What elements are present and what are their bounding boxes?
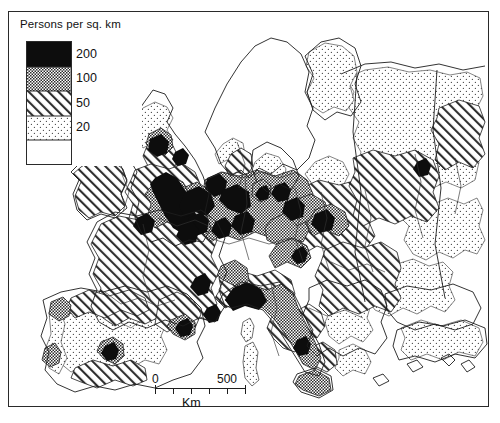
scale-tick-2 bbox=[191, 388, 192, 394]
legend-swatch-under-20 bbox=[27, 140, 71, 164]
scale-unit-label: Km bbox=[182, 396, 201, 410]
scale-tick-0 bbox=[155, 385, 156, 394]
scale-tick-5 bbox=[245, 385, 246, 394]
legend-label-50: 50 bbox=[76, 96, 90, 110]
legend-swatch-20-50 bbox=[27, 116, 71, 140]
map-figure: Persons per sq. km bbox=[0, 0, 500, 423]
scale-tick-4 bbox=[227, 388, 228, 394]
scale-tick-3 bbox=[209, 388, 210, 394]
scale-bar: 0 500 Km bbox=[155, 376, 255, 410]
legend-swatch-50-100 bbox=[27, 91, 71, 116]
scale-end-label: 500 bbox=[217, 372, 237, 386]
legend-swatch-100-200 bbox=[27, 67, 71, 91]
legend-swatch-stack bbox=[26, 41, 72, 165]
legend-label-200: 200 bbox=[76, 47, 97, 61]
legend: Persons per sq. km bbox=[14, 16, 142, 166]
legend-label-100: 100 bbox=[76, 71, 97, 85]
scale-start-label: 0 bbox=[152, 372, 159, 386]
scale-bar-line bbox=[155, 388, 246, 389]
legend-title: Persons per sq. km bbox=[20, 18, 121, 30]
legend-swatch-over-200 bbox=[27, 42, 71, 67]
scale-tick-1 bbox=[173, 388, 174, 394]
legend-label-20: 20 bbox=[76, 120, 90, 134]
